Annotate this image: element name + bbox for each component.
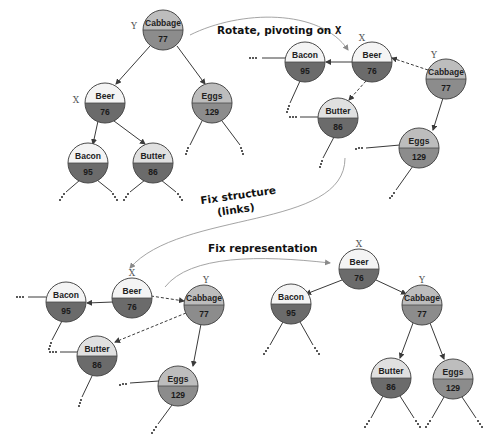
svg-text:Beer: Beer: [123, 286, 143, 296]
svg-text:Butter: Butter: [84, 344, 110, 354]
tree-node-eggs: Eggs 129: [433, 359, 473, 399]
tree-node-eggs: Eggs 129: [158, 366, 198, 406]
tree-node-cabbage: Cabbage 77 Y: [130, 10, 183, 50]
var-label-y: Y: [130, 21, 138, 31]
svg-text:76: 76: [367, 66, 377, 76]
svg-text:Butter: Butter: [378, 366, 404, 376]
svg-text:86: 86: [148, 167, 158, 177]
diagram-fixed-links: Bacon 95 Beer 76 X Cabbage 77 Y Butter 8…: [16, 268, 224, 434]
var-label-x: X: [129, 268, 136, 278]
rotate-caption: Rotate, pivoting on X: [217, 24, 342, 36]
svg-text:86: 86: [92, 360, 102, 370]
svg-text:77: 77: [417, 309, 427, 319]
svg-text:76: 76: [127, 302, 137, 312]
svg-text:95: 95: [61, 306, 71, 316]
svg-text:Eggs: Eggs: [168, 374, 189, 384]
tree-node-eggs: Eggs 129: [192, 83, 232, 123]
svg-text:Butter: Butter: [140, 151, 166, 161]
svg-text:Cabbage: Cabbage: [186, 293, 222, 303]
tree-node-cabbage: Cabbage 77 Y: [426, 50, 466, 99]
tree-node-cabbage: Cabbage 77 Y: [402, 275, 442, 325]
svg-text:Eggs: Eggs: [443, 367, 464, 377]
fix-representation-caption: Fix representation: [208, 242, 318, 254]
fix-representation-curve: [165, 259, 330, 287]
tree-node-butter: Butter 86: [318, 98, 358, 138]
svg-text:129: 129: [446, 383, 460, 393]
svg-text:Bacon: Bacon: [53, 290, 79, 300]
svg-text:95: 95: [83, 167, 93, 177]
treap-rotation-diagram: Rotate, pivoting on X Fix structure (lin…: [0, 0, 497, 448]
diagram-original: Cabbage 77 Y Beer 76 X Eggs 129 Bacon 95…: [59, 10, 244, 201]
svg-text:86: 86: [386, 382, 396, 392]
diagram-final: Beer 76 X Bacon 95 Cabbage 77 Y Butter 8…: [263, 239, 483, 428]
fix-structure-caption: Fix structure (links): [200, 184, 279, 220]
svg-text:Cabbage: Cabbage: [428, 67, 464, 77]
svg-text:Eggs: Eggs: [409, 136, 430, 146]
svg-text:129: 129: [412, 152, 426, 162]
svg-text:129: 129: [205, 107, 219, 117]
svg-text:Beer: Beer: [350, 257, 370, 267]
svg-text:Beer: Beer: [363, 50, 383, 60]
svg-text:(links): (links): [216, 201, 255, 218]
svg-text:Eggs: Eggs: [202, 91, 223, 101]
tree-node-bacon: Bacon 95: [68, 143, 108, 183]
svg-text:Cabbage: Cabbage: [145, 18, 181, 28]
svg-text:76: 76: [354, 273, 364, 283]
svg-text:Beer: Beer: [96, 91, 116, 101]
tree-node-butter: Butter 86: [133, 143, 173, 183]
var-label-x: X: [73, 95, 80, 105]
svg-text:95: 95: [300, 66, 310, 76]
svg-text:Bacon: Bacon: [278, 292, 304, 302]
svg-text:77: 77: [199, 309, 209, 319]
tree-node-bacon: Bacon 95: [271, 284, 311, 324]
svg-text:76: 76: [100, 107, 110, 117]
svg-text:Butter: Butter: [325, 106, 351, 116]
svg-text:77: 77: [158, 34, 168, 44]
tree-node-butter: Butter 86: [371, 358, 411, 398]
svg-text:Bacon: Bacon: [75, 151, 101, 161]
svg-text:77: 77: [441, 83, 451, 93]
svg-text:95: 95: [286, 308, 296, 318]
tree-node-beer: Beer 76 X: [339, 239, 379, 289]
svg-text:Bacon: Bacon: [292, 50, 318, 60]
tree-node-beer: Beer 76 X: [352, 33, 392, 82]
var-label-x: X: [356, 239, 363, 249]
svg-text:Cabbage: Cabbage: [404, 293, 440, 303]
tree-node-butter: Butter 86: [77, 336, 117, 376]
tree-node-beer: Beer 76 X: [112, 268, 152, 318]
tree-node-eggs: Eggs 129: [399, 128, 439, 168]
var-label-x: X: [359, 33, 366, 43]
tree-node-bacon: Bacon 95: [285, 42, 325, 82]
var-label-y: Y: [430, 50, 438, 60]
var-label-y: Y: [418, 275, 426, 285]
diagram-rotating: Bacon 95 Beer 76 X Cabbage 77 Y Butter 8…: [249, 33, 466, 199]
svg-text:86: 86: [333, 122, 343, 132]
svg-text:129: 129: [171, 390, 185, 400]
tree-node-bacon: Bacon 95: [46, 282, 86, 322]
var-label-y: Y: [202, 275, 210, 285]
tree-node-cabbage: Cabbage 77 Y: [184, 275, 224, 325]
tree-node-beer: Beer 76 X: [73, 83, 125, 123]
